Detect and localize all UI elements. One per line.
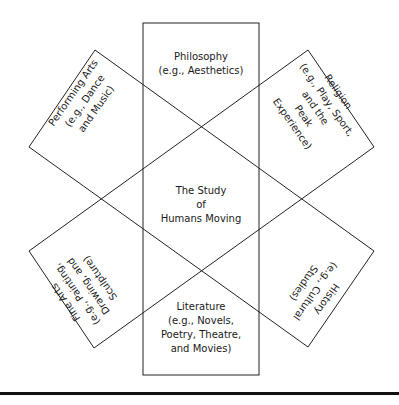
literature-example-1: (e.g., Novels, bbox=[143, 314, 259, 328]
literature-label: Literature (e.g., Novels, Poetry, Theatr… bbox=[143, 300, 259, 356]
philosophy-title: Philosophy bbox=[143, 50, 259, 64]
literature-title: Literature bbox=[143, 300, 259, 314]
center-label: The Study of Humans Moving bbox=[143, 184, 259, 226]
center-line-3: Humans Moving bbox=[143, 212, 259, 226]
center-line-2: of bbox=[143, 198, 259, 212]
bottom-divider bbox=[0, 392, 399, 395]
philosophy-example: (e.g., Aesthetics) bbox=[143, 64, 259, 78]
humans-moving-diagram: Philosophy (e.g., Aesthetics) The Study … bbox=[0, 0, 399, 405]
literature-example-2: Poetry, Theatre, bbox=[143, 328, 259, 342]
philosophy-label: Philosophy (e.g., Aesthetics) bbox=[143, 50, 259, 78]
center-line-1: The Study bbox=[143, 184, 259, 198]
literature-example-3: and Movies) bbox=[143, 342, 259, 356]
